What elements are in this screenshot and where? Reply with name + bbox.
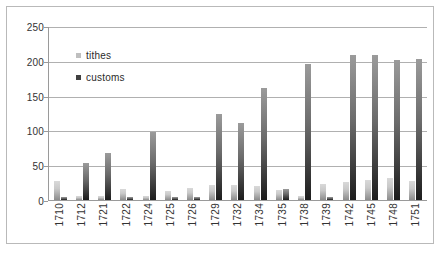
bar-customs-1710 xyxy=(61,197,67,200)
bar-tithes-1748 xyxy=(387,178,393,200)
x-axis-tick-cell: 1748 xyxy=(382,203,404,247)
bar-customs-1739 xyxy=(327,197,333,200)
x-axis-tick-cell: 1742 xyxy=(338,203,360,247)
y-axis-tick-label: 250 xyxy=(27,22,44,33)
bar-tithes-1751 xyxy=(409,181,415,200)
bar-customs-1751 xyxy=(416,59,422,200)
x-axis-tick-cell: 1724 xyxy=(137,203,159,247)
bar-tithes-1712 xyxy=(76,196,82,200)
bar-group xyxy=(316,27,338,200)
bar-tithes-1722 xyxy=(120,189,126,200)
bar-customs-1735 xyxy=(283,189,289,200)
x-axis-tick-cell: 1712 xyxy=(70,203,92,247)
bar-tithes-1742 xyxy=(343,182,349,200)
x-axis-tick-label: 1724 xyxy=(143,203,154,226)
bar-group xyxy=(383,27,405,200)
legend-label: tithes xyxy=(86,50,111,61)
bar-group xyxy=(205,27,227,200)
bar-customs-1729 xyxy=(216,114,222,200)
bar-group xyxy=(294,27,316,200)
y-axis-tick-label: 50 xyxy=(32,161,44,172)
x-axis-tick-cell: 1725 xyxy=(159,203,181,247)
bar-customs-1712 xyxy=(83,163,89,200)
bar-group xyxy=(227,27,249,200)
y-axis-tick-mark xyxy=(44,166,48,167)
bar-customs-1738 xyxy=(305,64,311,200)
bar-tithes-1725 xyxy=(165,191,171,200)
bar-tithes-1721 xyxy=(98,196,104,200)
x-axis-tick-label: 1726 xyxy=(187,203,198,226)
bar-customs-1721 xyxy=(105,153,111,200)
x-axis-tick-label: 1729 xyxy=(210,203,221,226)
chart-legend: tithescustoms xyxy=(76,50,125,83)
x-axis-tick-cell: 1710 xyxy=(48,203,70,247)
x-axis-tick-cell: 1739 xyxy=(316,203,338,247)
bar-customs-1722 xyxy=(127,197,133,200)
x-axis-tick-label: 1725 xyxy=(165,203,176,226)
y-axis-tick-label: 150 xyxy=(27,91,44,102)
y-axis-tick-mark xyxy=(44,131,48,132)
bar-group xyxy=(360,27,382,200)
bar-tithes-1739 xyxy=(320,184,326,200)
x-axis-tick-cell: 1721 xyxy=(93,203,115,247)
legend-item-customs[interactable]: customs xyxy=(76,72,125,83)
x-axis-tick-cell: 1735 xyxy=(271,203,293,247)
x-axis-tick-label: 1739 xyxy=(321,203,332,226)
x-axis-tick-label: 1735 xyxy=(277,203,288,226)
legend-swatch-icon xyxy=(76,75,81,80)
y-axis-tick-mark xyxy=(44,201,48,202)
y-axis-tick-mark xyxy=(44,62,48,63)
y-axis-tick-mark xyxy=(44,97,48,98)
y-axis: 050100150200250 xyxy=(8,27,44,201)
x-axis-tick-cell: 1729 xyxy=(204,203,226,247)
bar-group xyxy=(49,27,71,200)
y-axis-tick-mark xyxy=(44,27,48,28)
bar-group xyxy=(160,27,182,200)
x-axis-tick-cell: 1722 xyxy=(115,203,137,247)
bar-tithes-1724 xyxy=(143,196,149,200)
x-axis: 1710171217211722172417251726172917321734… xyxy=(48,203,427,247)
bar-customs-1726 xyxy=(194,197,200,200)
bar-tithes-1738 xyxy=(298,196,304,200)
x-axis-tick-label: 1748 xyxy=(388,203,399,226)
bar-group xyxy=(138,27,160,200)
legend-swatch-icon xyxy=(76,53,81,58)
bar-customs-1742 xyxy=(350,55,356,200)
x-axis-tick-label: 1751 xyxy=(410,203,421,226)
bar-group xyxy=(182,27,204,200)
x-axis-tick-label: 1742 xyxy=(344,203,355,226)
legend-label: customs xyxy=(86,72,125,83)
bar-group xyxy=(271,27,293,200)
bar-tithes-1732 xyxy=(231,185,237,200)
bar-tithes-1735 xyxy=(276,190,282,200)
x-axis-tick-label: 1732 xyxy=(232,203,243,226)
bar-tithes-1745 xyxy=(365,180,371,200)
x-axis-tick-label: 1738 xyxy=(299,203,310,226)
x-axis-tick-cell: 1738 xyxy=(293,203,315,247)
bar-group xyxy=(338,27,360,200)
bar-group xyxy=(405,27,427,200)
chart-container: 050100150200250 171017121721172217241725… xyxy=(0,0,441,257)
x-axis-tick-label: 1745 xyxy=(366,203,377,226)
bar-tithes-1726 xyxy=(187,188,193,200)
x-axis-tick-label: 1710 xyxy=(54,203,65,226)
x-axis-tick-cell: 1734 xyxy=(249,203,271,247)
bar-customs-1725 xyxy=(172,197,178,200)
y-axis-tick-label: 200 xyxy=(27,56,44,67)
bar-customs-1734 xyxy=(261,88,267,200)
x-axis-tick-cell: 1726 xyxy=(182,203,204,247)
bar-customs-1745 xyxy=(372,55,378,200)
bar-tithes-1710 xyxy=(54,181,60,200)
x-axis-tick-cell: 1732 xyxy=(226,203,248,247)
x-axis-tick-label: 1712 xyxy=(76,203,87,226)
x-axis-tick-label: 1722 xyxy=(121,203,132,226)
legend-item-tithes[interactable]: tithes xyxy=(76,50,125,61)
x-axis-tick-cell: 1745 xyxy=(360,203,382,247)
bar-tithes-1734 xyxy=(254,186,260,200)
bar-customs-1732 xyxy=(238,123,244,200)
bar-customs-1748 xyxy=(394,60,400,200)
y-axis-tick-label: 100 xyxy=(27,126,44,137)
bar-tithes-1729 xyxy=(209,185,215,200)
x-axis-tick-label: 1721 xyxy=(98,203,109,226)
x-axis-tick-label: 1734 xyxy=(254,203,265,226)
